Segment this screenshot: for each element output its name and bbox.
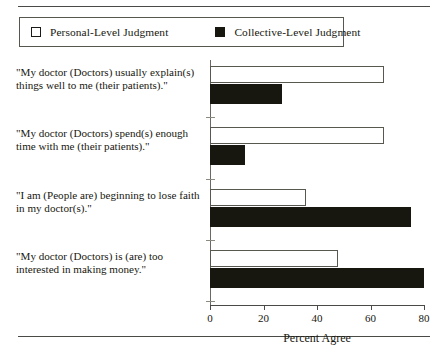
plot-area: Percent Agree 020406080	[210, 60, 424, 305]
category-label: "My doctor (Doctors) is (are) too intere…	[16, 250, 204, 276]
category-label: "My doctor (Doctors) usually explain(s) …	[16, 66, 204, 92]
x-tick-label: 0	[207, 312, 213, 324]
legend-item-personal: Personal-Level Judgment	[31, 26, 168, 38]
x-tick-label: 20	[258, 312, 269, 324]
bar-personal	[210, 66, 384, 83]
legend-label-personal: Personal-Level Judgment	[50, 26, 168, 38]
x-tick-label: 60	[365, 312, 376, 324]
x-tick	[371, 305, 372, 310]
x-tick-label: 40	[312, 312, 323, 324]
open-square-icon	[31, 27, 41, 37]
x-tick-label: 80	[419, 312, 430, 324]
figure: Personal-Level Judgment Collective-Level…	[0, 0, 442, 349]
bar-collective	[210, 84, 282, 104]
bar-collective	[210, 268, 424, 288]
bar-personal	[210, 250, 338, 267]
x-tick	[317, 305, 318, 310]
bottom-rule	[18, 336, 430, 337]
chart-legend: Personal-Level Judgment Collective-Level…	[19, 17, 344, 47]
category-label: "I am (People are) beginning to lose fai…	[16, 189, 204, 215]
x-tick	[210, 305, 211, 310]
bar-personal	[210, 127, 384, 144]
x-tick	[424, 305, 425, 310]
y-axis-minor-tick	[206, 179, 215, 180]
filled-square-icon	[215, 27, 225, 37]
bar-collective	[210, 145, 245, 165]
y-axis-minor-tick	[206, 240, 215, 241]
x-axis-label: Percent Agree	[283, 331, 351, 346]
y-axis-minor-tick	[206, 117, 215, 118]
y-axis-minor-tick	[206, 301, 215, 302]
top-rule	[18, 6, 430, 7]
bar-collective	[210, 207, 411, 227]
legend-label-collective: Collective-Level Judgment	[234, 26, 360, 38]
legend-item-collective: Collective-Level Judgment	[215, 26, 360, 38]
x-tick	[264, 305, 265, 310]
category-label: "My doctor (Doctors) spend(s) enough tim…	[16, 127, 204, 153]
bar-personal	[210, 189, 306, 206]
